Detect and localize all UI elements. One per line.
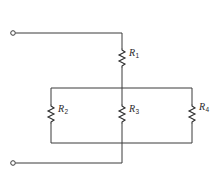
label-r1: R1 <box>128 47 140 59</box>
wire-top-input <box>16 33 123 48</box>
label-r4: R4 <box>198 101 210 113</box>
resistor-r4 <box>189 104 195 124</box>
resistor-r3 <box>119 104 125 124</box>
terminal-bottom-icon <box>11 161 16 166</box>
resistor-r1 <box>119 48 125 68</box>
circuit-diagram: R1 R2 R3 R4 <box>0 0 223 173</box>
terminal-top-icon <box>11 31 16 36</box>
resistor-r2 <box>48 104 54 124</box>
label-r3: R3 <box>128 103 140 115</box>
label-r2: R2 <box>57 103 69 115</box>
